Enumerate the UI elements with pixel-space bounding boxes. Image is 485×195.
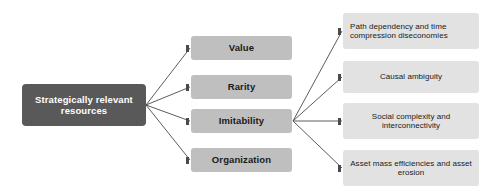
node-label: Imitability bbox=[219, 115, 264, 126]
node-path-dependency-and-time-compression-dis[interactable]: Path dependency and time compression dis… bbox=[343, 13, 479, 49]
connector-marker-value bbox=[186, 45, 189, 52]
node-label: Organization bbox=[212, 154, 271, 165]
node-social-complexity-and-interconnectivity[interactable]: Social complexity and interconnectivity bbox=[343, 103, 479, 139]
node-strategically-relevant-resources[interactable]: Strategically relevant resources bbox=[22, 84, 146, 126]
node-value[interactable]: Value bbox=[191, 36, 292, 60]
connector-marker-social-complexity-and-interconnectivity bbox=[338, 118, 341, 125]
node-label: Asset mass efficiencies and asset erosio… bbox=[350, 159, 472, 178]
node-label: Rarity bbox=[228, 81, 256, 92]
connector-marker-imitability bbox=[186, 118, 189, 125]
node-label: Path dependency and time compression dis… bbox=[350, 22, 472, 41]
node-label: Social complexity and interconnectivity bbox=[350, 112, 472, 131]
node-label: Strategically relevant resources bbox=[28, 94, 140, 116]
node-asset-mass-efficiencies-and-asset-erosio[interactable]: Asset mass efficiencies and asset erosio… bbox=[343, 150, 479, 186]
connector-marker-path-dependency-and-time-compression-dis bbox=[338, 28, 341, 35]
node-label: Value bbox=[229, 42, 254, 53]
connector-marker-causal-ambiguity bbox=[338, 74, 341, 81]
connector-marker-asset-mass-efficiencies-and-asset-erosio bbox=[338, 165, 341, 172]
node-rarity[interactable]: Rarity bbox=[191, 75, 292, 99]
connector-marker-rarity bbox=[186, 84, 189, 91]
node-organization[interactable]: Organization bbox=[191, 148, 292, 172]
node-imitability[interactable]: Imitability bbox=[191, 109, 292, 133]
node-label: Causal ambiguity bbox=[380, 72, 442, 81]
diagram-canvas: Strategically relevant resources ValueRa… bbox=[0, 0, 485, 195]
connector-marker-organization bbox=[186, 157, 189, 164]
node-causal-ambiguity[interactable]: Causal ambiguity bbox=[343, 61, 479, 93]
